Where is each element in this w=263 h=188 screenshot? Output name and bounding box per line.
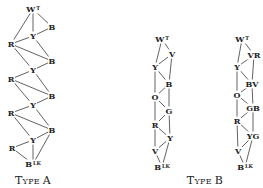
- node-label: Y: [29, 31, 36, 41]
- node-label: R: [8, 39, 15, 49]
- node-label: B: [49, 125, 56, 135]
- node-label: Y: [29, 65, 36, 75]
- node-label: R: [8, 74, 15, 84]
- node-label: B: [49, 56, 56, 66]
- node-label: R: [9, 143, 16, 153]
- node-label: R: [152, 120, 159, 130]
- node-label: B: [49, 91, 56, 101]
- node-label: BV: [246, 79, 260, 89]
- node-label: Y: [166, 133, 173, 143]
- node-label: O: [152, 92, 159, 102]
- node-label: O: [234, 90, 241, 100]
- node-label: R: [234, 116, 241, 126]
- color-lattice-diagram: WTBYRBYRBYRBYRBLKWTVYBOGRYVBLKWTVRYBVOGB…: [0, 0, 263, 188]
- node-label: G: [166, 106, 173, 116]
- node-label: V: [234, 146, 242, 156]
- node-label: V: [151, 146, 159, 156]
- node-label: B: [166, 79, 173, 89]
- node-label: R: [8, 108, 15, 118]
- caption-type-b: TYPE B: [187, 174, 223, 187]
- node-label: VR: [247, 50, 261, 60]
- caption-type-a: TYPE A: [15, 174, 52, 187]
- node-label: Y: [151, 62, 158, 72]
- edges-layer: [11, 9, 254, 167]
- node-label: Y: [29, 135, 36, 145]
- node-label: Y: [233, 62, 240, 72]
- node-label: YG: [246, 131, 260, 141]
- node-label: B: [49, 22, 56, 32]
- node-label: V: [168, 49, 176, 59]
- node-label: Y: [29, 100, 36, 110]
- nodes-layer: WTBYRBYRBYRBYRBLKWTVYBOGRYVBLKWTVRYBVOGB…: [7, 4, 261, 172]
- node-label: GB: [246, 103, 260, 113]
- captions-layer: TYPE A TYPE B: [15, 174, 223, 187]
